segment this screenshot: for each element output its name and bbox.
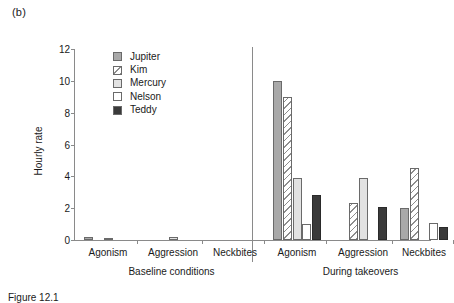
legend-label: Kim — [130, 65, 147, 75]
bar-teddy-aggression-takeover — [378, 207, 387, 240]
bar-kim-neckbites-takeover — [410, 168, 419, 240]
bar-mercury-agonism-baseline — [104, 238, 113, 240]
bar-nelson-neckbites-takeover — [429, 223, 438, 241]
x-tick-mark — [326, 240, 327, 244]
legend-item-mercury: Mercury — [113, 77, 166, 90]
bar-mercury-agonism-takeover — [293, 178, 302, 240]
legend-label: Nelson — [130, 92, 161, 102]
legend-item-teddy: Teddy — [113, 104, 166, 117]
x-category-label-neckbites-baseline: Neckbites — [213, 247, 257, 258]
legend-swatch-mercury-icon — [113, 79, 122, 88]
panel-label: (b) — [12, 6, 26, 18]
bar-jupiter-neckbites-takeover — [400, 208, 409, 240]
legend-label: Jupiter — [130, 52, 160, 62]
figure-caption: Figure 12.1 — [8, 292, 59, 303]
y-tick-mark-2 — [71, 208, 75, 209]
x-group-label-0: Baseline conditions — [128, 266, 214, 277]
y-tick-mark-6 — [71, 145, 75, 146]
x-tick-mark — [264, 240, 265, 244]
y-tick-mark-0 — [71, 240, 75, 241]
bar-nelson-agonism-takeover — [302, 224, 311, 240]
x-category-label-neckbites-takeover: Neckbites — [402, 247, 446, 258]
bar-teddy-agonism-takeover — [312, 195, 321, 240]
y-tick-mark-8 — [71, 113, 75, 114]
x-category-label-agonism-takeover: Agonism — [278, 247, 317, 258]
x-category-label-aggression-takeover: Aggression — [338, 247, 388, 258]
bar-teddy-neckbites-takeover — [439, 227, 448, 240]
bar-mercury-aggression-baseline — [169, 237, 178, 240]
x-tick-mark — [392, 240, 393, 244]
legend-swatch-jupiter-icon — [113, 52, 122, 61]
bar-mercury-aggression-takeover — [359, 178, 368, 240]
legend-item-kim: Kim — [113, 63, 166, 76]
bar-kim-agonism-takeover — [283, 97, 292, 240]
y-axis-label: Hourly rate — [33, 126, 44, 175]
legend-label: Mercury — [130, 78, 166, 88]
bar-jupiter-agonism-baseline — [84, 237, 93, 240]
legend-swatch-teddy-icon — [113, 106, 122, 115]
x-tick-mark — [202, 240, 203, 244]
x-category-label-agonism-baseline: Agonism — [89, 247, 128, 258]
legend-item-nelson: Nelson — [113, 90, 166, 103]
x-category-label-aggression-baseline: Aggression — [148, 247, 198, 258]
legend-item-jupiter: Jupiter — [113, 50, 166, 63]
bar-kim-aggression-takeover — [349, 203, 358, 240]
legend-swatch-nelson-icon — [113, 92, 122, 101]
x-tick-mark — [137, 240, 138, 244]
legend: JupiterKimMercuryNelsonTeddy — [113, 50, 166, 117]
y-tick-mark-12 — [71, 49, 75, 50]
y-tick-mark-4 — [71, 176, 75, 177]
bar-jupiter-agonism-takeover — [273, 81, 282, 240]
x-group-label-1: During takeovers — [323, 266, 399, 277]
y-tick-mark-10 — [71, 81, 75, 82]
legend-label: Teddy — [130, 105, 157, 115]
legend-swatch-kim-icon — [113, 66, 122, 75]
